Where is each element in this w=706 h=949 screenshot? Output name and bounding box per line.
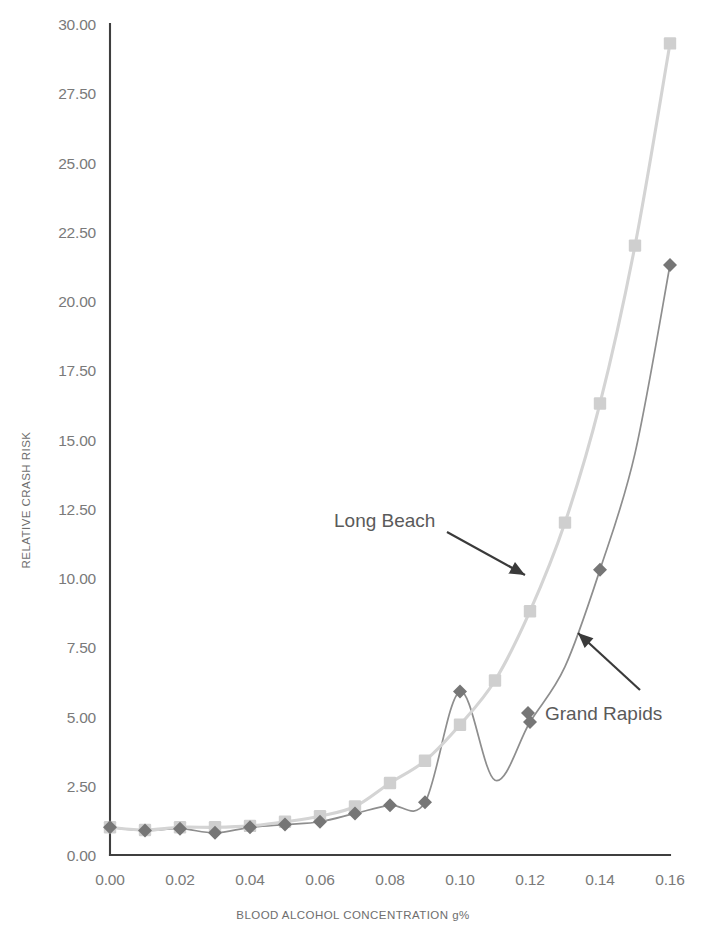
x-tick-label: 0.04 <box>235 871 265 888</box>
y-tick-label: 5.00 <box>67 709 97 726</box>
data-point-long-beach <box>629 239 641 251</box>
y-tick-label: 27.50 <box>58 85 96 102</box>
crash-risk-chart: 0.002.505.007.5010.0012.5015.0017.5020.0… <box>0 0 706 949</box>
annotation-label-long-beach: Long Beach <box>334 510 435 531</box>
chart-annotations: Long BeachGrand Rapids <box>334 510 662 724</box>
data-point-long-beach <box>419 755 431 767</box>
x-tick-label: 0.14 <box>585 871 615 888</box>
annotation-label-grand-rapids: Grand Rapids <box>545 703 662 724</box>
x-axis-tick-labels: 0.000.020.040.060.080.100.120.140.16 <box>95 871 684 888</box>
y-tick-label: 12.50 <box>58 501 96 518</box>
x-tick-label: 0.00 <box>95 871 125 888</box>
y-tick-label: 17.50 <box>58 362 96 379</box>
x-tick-label: 0.06 <box>305 871 334 888</box>
y-axis-title: RELATIVE CRASH RISK <box>20 432 32 569</box>
annotation-arrow-long-beach <box>447 532 525 575</box>
chart-canvas: 0.002.505.007.5010.0012.5015.0017.5020.0… <box>0 0 706 949</box>
y-tick-label: 7.50 <box>67 639 97 656</box>
data-point-grand-rapids <box>663 258 677 272</box>
x-tick-label: 0.08 <box>375 871 404 888</box>
series-line-grand-rapids <box>110 265 670 833</box>
data-point-long-beach <box>524 605 536 617</box>
y-axis-tick-labels: 0.002.505.007.5010.0012.5015.0017.5020.0… <box>58 16 96 864</box>
data-point-grand-rapids <box>383 798 397 812</box>
x-axis-title: BLOOD ALCOHOL CONCENTRATION g% <box>236 909 469 921</box>
x-tick-label: 0.16 <box>655 871 684 888</box>
x-tick-label: 0.10 <box>445 871 475 888</box>
data-point-grand-rapids <box>593 563 607 577</box>
x-tick-label: 0.02 <box>165 871 194 888</box>
x-tick-label: 0.12 <box>515 871 544 888</box>
annotation-arrow-grand-rapids <box>578 633 640 690</box>
y-tick-label: 30.00 <box>58 16 96 33</box>
y-tick-label: 20.00 <box>58 293 96 310</box>
data-point-long-beach <box>489 674 501 686</box>
data-point-long-beach <box>559 516 571 528</box>
data-point-long-beach <box>594 397 606 409</box>
y-tick-label: 25.00 <box>58 155 96 172</box>
y-tick-label: 22.50 <box>58 224 96 241</box>
y-tick-label: 2.50 <box>67 778 97 795</box>
series-markers-grand-rapids <box>103 258 677 840</box>
y-tick-label: 15.00 <box>58 432 96 449</box>
y-tick-label: 10.00 <box>58 570 96 587</box>
data-point-long-beach <box>664 37 676 49</box>
data-point-long-beach <box>384 777 396 789</box>
y-tick-label: 0.00 <box>67 847 97 864</box>
data-point-long-beach <box>454 719 466 731</box>
